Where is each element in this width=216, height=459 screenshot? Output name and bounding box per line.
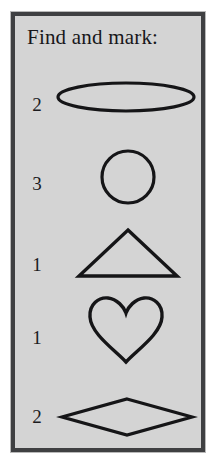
worksheet-card: Find and mark: 2 3 1 — [11, 12, 205, 452]
row-count-triangle: 1 — [25, 254, 49, 276]
row-count-ellipse: 2 — [25, 94, 49, 116]
ellipse-shape[interactable] — [55, 80, 197, 114]
task-row: 3 — [15, 148, 201, 218]
row-count-heart: 1 — [25, 327, 49, 349]
heart-shape[interactable] — [85, 294, 167, 366]
triangle-shape[interactable] — [75, 226, 181, 280]
rhombus-shape[interactable] — [59, 396, 195, 438]
row-count-rhombus: 2 — [25, 406, 49, 428]
task-row: 1 — [15, 294, 201, 376]
page-title: Find and mark: — [27, 24, 158, 50]
task-row: 2 — [15, 76, 201, 136]
task-row: 2 — [15, 384, 201, 446]
row-count-circle: 3 — [25, 173, 49, 195]
circle-shape[interactable] — [99, 148, 157, 206]
task-row: 1 — [15, 224, 201, 290]
worksheet-card-inner: Find and mark: 2 3 1 — [15, 16, 201, 448]
